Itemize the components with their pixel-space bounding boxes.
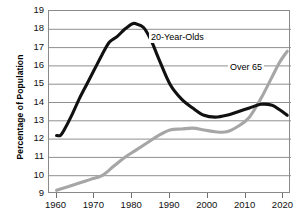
y-axis-tick-label: 17 bbox=[22, 42, 44, 52]
x-axis-tick-label: 1980 bbox=[111, 200, 151, 210]
y-axis-tick-label: 12 bbox=[22, 133, 44, 143]
x-axis-tick-label: 2000 bbox=[187, 200, 227, 210]
y-axis-tick-label: 11 bbox=[22, 151, 44, 161]
series-label-20-year-olds: 20-Year-Olds bbox=[149, 33, 206, 43]
y-axis-tick-label: 14 bbox=[22, 97, 44, 107]
x-axis-tick-mark bbox=[131, 193, 132, 198]
y-axis-tick-label: 13 bbox=[22, 115, 44, 125]
gridlines bbox=[49, 29, 291, 175]
x-axis-tick-label: 2010 bbox=[225, 200, 265, 210]
x-axis-tick-label: 1960 bbox=[36, 200, 76, 210]
x-axis-tick-mark bbox=[93, 193, 94, 198]
x-axis-tick-mark bbox=[169, 193, 170, 198]
series-label-over-65: Over 65 bbox=[228, 63, 264, 73]
y-axis-tick-label: 16 bbox=[22, 60, 44, 70]
x-axis-tick-mark bbox=[207, 193, 208, 198]
y-axis-tick-label: 19 bbox=[22, 5, 44, 15]
x-axis-tick-label: 1970 bbox=[73, 200, 113, 210]
x-axis-tick-label: 2020 bbox=[262, 200, 302, 210]
y-axis-tick-label: 10 bbox=[22, 170, 44, 180]
x-axis-tick-mark bbox=[245, 193, 246, 198]
chart-container: Percentage of Population 910111213141516… bbox=[0, 0, 308, 224]
x-axis-tick-mark bbox=[56, 193, 57, 198]
y-axis-tick-label: 18 bbox=[22, 23, 44, 33]
x-axis-tick-mark bbox=[282, 193, 283, 198]
y-axis-tick-label: 15 bbox=[22, 78, 44, 88]
y-axis-tick-label: 9 bbox=[22, 188, 44, 198]
x-axis-tick-label: 1990 bbox=[149, 200, 189, 210]
